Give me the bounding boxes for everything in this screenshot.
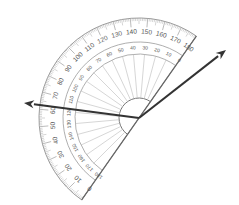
inner-scale-label: 40 [130,44,136,50]
protractor-diagram: 0102030405060708090100110120130140150160… [0,0,239,205]
protractor-svg: 0102030405060708090100110120130140150160… [0,0,239,205]
inner-scale-label: 130 [65,120,72,129]
outer-scale-label: 140 [126,28,138,36]
inner-scale-label: 30 [142,44,148,50]
outer-scale-label: 150 [141,28,153,36]
arrowhead-icon [24,100,34,108]
outer-scale-label: 50 [49,121,57,129]
